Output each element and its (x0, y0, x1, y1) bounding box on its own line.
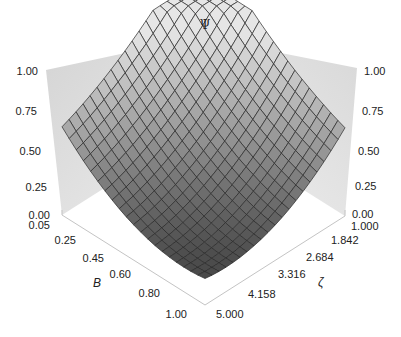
z-axis-title: Ψ (200, 18, 211, 32)
b-tick: 0.80 (139, 287, 160, 299)
z-axis-right-ticks: 1.00 0.75 0.50 0.25 0.00 (352, 65, 385, 220)
z-tick-right: 1.00 (364, 65, 385, 77)
zeta-tick: 3.316 (278, 268, 306, 280)
zeta-tick: 1.000 (351, 220, 379, 232)
z-tick-left: 0.50 (20, 145, 41, 157)
surface-mesh (62, 0, 345, 279)
zeta-axis-title: ζ (318, 275, 325, 289)
z-tick-left: 0.75 (16, 105, 37, 117)
b-axis-title: B (93, 276, 101, 290)
zeta-tick: 4.158 (248, 288, 276, 300)
b-tick: 0.25 (55, 234, 76, 246)
b-tick: 0.05 (29, 219, 50, 231)
z-tick-right: 0.00 (352, 208, 373, 220)
z-tick-left: 1.00 (17, 65, 38, 77)
zeta-tick: 1.842 (331, 234, 359, 246)
surface-plot: Ψ 1.00 0.75 0.50 0.25 0.00 1.00 0.75 0.5… (0, 0, 401, 337)
z-axis-left-ticks: 1.00 0.75 0.50 0.25 0.00 (16, 65, 50, 221)
z-tick-right: 0.25 (355, 180, 376, 192)
z-tick-right: 0.50 (358, 145, 379, 157)
b-tick: 0.60 (110, 268, 131, 280)
b-tick: 0.45 (83, 252, 104, 264)
z-tick-right: 0.75 (362, 105, 383, 117)
zeta-tick: 2.684 (306, 251, 334, 263)
z-tick-left: 0.25 (26, 181, 47, 193)
zeta-tick: 5.000 (216, 308, 244, 320)
b-tick: 1.00 (166, 308, 187, 320)
